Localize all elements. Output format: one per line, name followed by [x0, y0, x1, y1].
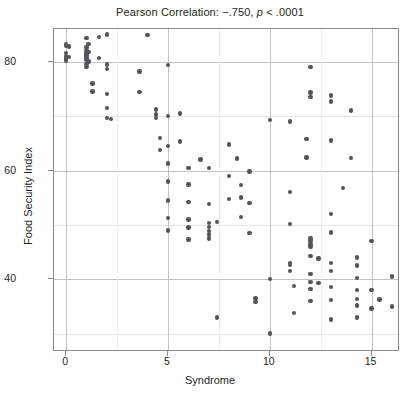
data-point: [288, 190, 292, 194]
data-point: [109, 117, 113, 121]
gridline-x-minor: [117, 29, 118, 350]
data-point: [329, 212, 333, 216]
data-point: [105, 67, 109, 71]
y-tick-label: 60: [0, 164, 16, 176]
data-point: [355, 263, 359, 267]
data-point: [292, 311, 296, 315]
data-point: [105, 92, 109, 96]
data-point: [377, 297, 381, 301]
data-point: [316, 281, 320, 285]
data-point: [304, 137, 308, 141]
x-tick-mark: [167, 351, 168, 356]
data-point: [329, 138, 333, 142]
data-point: [67, 55, 71, 59]
data-point: [235, 156, 239, 160]
data-point: [86, 59, 90, 63]
data-point: [390, 304, 394, 308]
data-point: [329, 93, 333, 97]
gridline-y-major: [54, 171, 398, 172]
data-point: [84, 65, 88, 69]
data-point: [355, 297, 359, 301]
data-point: [349, 156, 353, 160]
data-point: [158, 136, 162, 140]
data-point: [355, 315, 359, 319]
data-point: [355, 288, 359, 292]
plot-area: [54, 29, 398, 350]
data-point: [97, 56, 101, 60]
data-point: [215, 315, 219, 319]
data-point: [166, 228, 170, 232]
plot-frame: [53, 28, 399, 351]
data-point: [97, 35, 101, 39]
data-point: [349, 108, 353, 112]
data-point: [341, 186, 345, 190]
data-point: [84, 36, 88, 40]
gridline-x-major: [372, 29, 373, 350]
x-tick-label: 0: [50, 355, 80, 367]
gridline-x-minor: [321, 29, 322, 350]
data-point: [186, 182, 190, 186]
data-point: [239, 183, 243, 187]
data-point: [329, 317, 333, 321]
y-tick-mark: [48, 170, 53, 171]
data-point: [166, 179, 170, 183]
data-point: [154, 107, 158, 111]
y-tick-mark: [48, 278, 53, 279]
data-point: [90, 81, 94, 85]
data-point: [329, 230, 333, 234]
data-point: [369, 288, 373, 292]
data-point: [178, 139, 182, 143]
data-point: [154, 116, 158, 120]
data-point: [105, 32, 109, 36]
data-point: [227, 174, 231, 178]
data-point: [105, 106, 109, 110]
x-tick-mark: [371, 351, 372, 356]
data-point: [178, 111, 182, 115]
data-point: [369, 306, 373, 310]
data-point: [166, 144, 170, 148]
gridline-y-minor: [54, 225, 398, 226]
x-tick-mark: [269, 351, 270, 356]
data-point: [207, 166, 211, 170]
data-point: [227, 142, 231, 146]
chart-title: Pearson Correlation: −.750, p < .0001: [0, 6, 420, 18]
x-tick-label: 10: [254, 355, 284, 367]
data-point: [369, 239, 373, 243]
data-point: [247, 169, 251, 173]
data-point: [186, 237, 190, 241]
data-point: [308, 287, 312, 291]
x-tick-label: 15: [356, 355, 386, 367]
scatter-plot-figure: Pearson Correlation: −.750, p < .0001 40…: [0, 0, 420, 400]
data-point: [186, 166, 190, 170]
chart-title-suffix: < .0001: [263, 6, 304, 18]
data-point: [329, 261, 333, 265]
data-point: [227, 197, 231, 201]
gridline-x-minor: [219, 29, 220, 350]
data-point: [198, 157, 202, 161]
gridline-x-major: [66, 29, 67, 350]
data-point: [329, 285, 333, 289]
gridline-x-major: [168, 29, 169, 350]
data-point: [86, 50, 90, 54]
data-point: [268, 277, 272, 281]
data-point: [292, 284, 296, 288]
data-point: [186, 200, 190, 204]
data-point: [186, 217, 190, 221]
y-tick-label: 80: [0, 55, 16, 67]
data-point: [207, 202, 211, 206]
data-point: [288, 263, 292, 267]
data-point: [105, 62, 109, 66]
gridline-y-major: [54, 279, 398, 280]
data-point: [288, 119, 292, 123]
data-point: [166, 216, 170, 220]
chart-title-prefix: Pearson Correlation: −.750,: [116, 6, 257, 18]
data-point: [253, 300, 257, 304]
data-point: [355, 255, 359, 259]
data-point: [308, 95, 312, 99]
gridline-y-minor: [54, 334, 398, 335]
data-point: [308, 254, 312, 258]
gridline-x-major: [270, 29, 271, 350]
data-point: [166, 198, 170, 202]
data-point: [207, 236, 211, 240]
data-point: [390, 274, 394, 278]
